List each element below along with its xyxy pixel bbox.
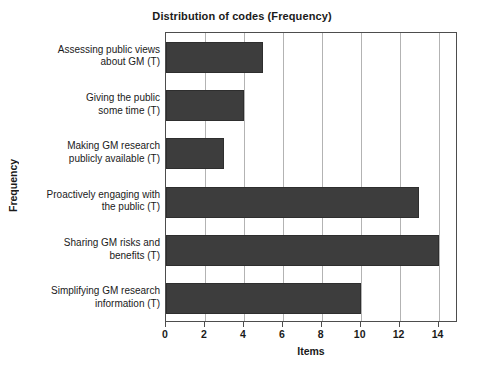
x-tick-mark-10	[360, 322, 361, 327]
y-axis-label-line: Proactively engaging with	[24, 189, 160, 202]
bar	[166, 42, 263, 73]
y-axis-label-line: benefits (T)	[24, 250, 160, 263]
bar-chart: Distribution of codes (Frequency) Freque…	[0, 0, 484, 370]
chart-title: Distribution of codes (Frequency)	[0, 10, 484, 22]
x-tick-label: 10	[345, 328, 375, 340]
x-tick-mark-2	[204, 322, 205, 327]
y-axis-label: Giving the publicsome time (T)	[24, 92, 160, 117]
y-axis-label-line: Simplifying GM research	[24, 285, 160, 298]
y-axis-label-line: publicly available (T)	[24, 153, 160, 166]
y-axis-label-line: information (T)	[24, 298, 160, 311]
x-tick-mark-4	[243, 322, 244, 327]
bar	[166, 187, 419, 218]
y-axis-title: Frequency	[4, 130, 22, 240]
bars-group	[166, 33, 456, 321]
x-tick-label: 0	[150, 328, 180, 340]
x-tick-label: 6	[267, 328, 297, 340]
x-tick-label: 4	[228, 328, 258, 340]
bar	[166, 283, 361, 314]
x-axis-ticks: 02468101214	[165, 322, 457, 346]
y-axis-label-line: some time (T)	[24, 105, 160, 118]
plot-area	[165, 32, 457, 322]
x-tick-label: 12	[384, 328, 414, 340]
y-axis-label: Making GM researchpublicly available (T)	[24, 140, 160, 165]
y-axis-label-line: about GM (T)	[24, 56, 160, 69]
x-tick-label: 14	[423, 328, 453, 340]
x-tick-mark-0	[165, 322, 166, 327]
x-axis-title: Items	[165, 345, 457, 357]
y-axis-label-line: Assessing public views	[24, 44, 160, 57]
x-tick-label: 8	[306, 328, 336, 340]
y-axis-label: Assessing public viewsabout GM (T)	[24, 44, 160, 69]
y-axis-label: Simplifying GM researchinformation (T)	[24, 285, 160, 310]
bar	[166, 235, 439, 266]
bar	[166, 90, 244, 121]
x-tick-mark-14	[438, 322, 439, 327]
y-axis-label: Proactively engaging withthe public (T)	[24, 189, 160, 214]
y-axis-label: Sharing GM risks andbenefits (T)	[24, 237, 160, 262]
x-tick-mark-6	[282, 322, 283, 327]
y-axis-label-line: the public (T)	[24, 201, 160, 214]
x-tick-label: 2	[189, 328, 219, 340]
bar	[166, 138, 224, 169]
x-tick-mark-12	[399, 322, 400, 327]
y-axis-label-line: Giving the public	[24, 92, 160, 105]
x-tick-mark-8	[321, 322, 322, 327]
y-axis-label-line: Making GM research	[24, 140, 160, 153]
y-axis-category-labels: Assessing public viewsabout GM (T)Giving…	[24, 32, 160, 322]
y-axis-label-line: Sharing GM risks and	[24, 237, 160, 250]
